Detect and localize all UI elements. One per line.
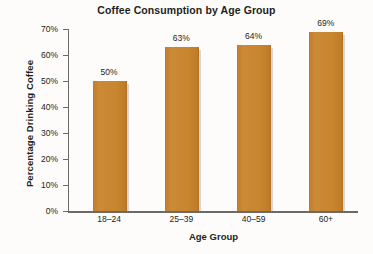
y-tick-label: 30% — [18, 129, 58, 138]
y-tick-mark — [63, 55, 68, 56]
bar — [93, 81, 127, 211]
x-category-label: 25–39 — [153, 215, 210, 224]
y-tick-label: 50% — [18, 77, 58, 86]
x-category-label: 60+ — [297, 215, 354, 224]
y-tick-mark — [63, 185, 68, 186]
chart-title: Coffee Consumption by Age Group — [0, 4, 373, 16]
x-category-label: 40–59 — [225, 215, 282, 224]
bar-value-label: 69% — [299, 19, 352, 28]
bar-value-label: 63% — [155, 34, 208, 43]
y-tick-mark — [63, 133, 68, 134]
y-tick-label: 40% — [18, 103, 58, 112]
y-tick-mark — [63, 107, 68, 108]
y-tick-mark — [63, 29, 68, 30]
y-tick-mark — [63, 81, 68, 82]
bar — [165, 47, 199, 211]
bar-chart: Coffee Consumption by Age Group Percenta… — [0, 0, 373, 254]
bar — [237, 45, 271, 211]
plot-area: 50%63%64%69% — [69, 29, 358, 211]
x-axis-title: Age Group — [69, 231, 358, 242]
bar — [309, 32, 343, 211]
x-axis-line — [68, 211, 358, 213]
y-tick-mark — [63, 159, 68, 160]
y-tick-mark — [63, 211, 68, 212]
y-tick-label: 10% — [18, 181, 58, 190]
y-tick-label: 20% — [18, 155, 58, 164]
y-tick-label: 60% — [18, 51, 58, 60]
bar-value-label: 64% — [227, 32, 280, 41]
bar-value-label: 50% — [83, 68, 136, 77]
y-tick-label: 70% — [18, 25, 58, 34]
x-category-label: 18–24 — [81, 215, 138, 224]
y-tick-label: 0% — [18, 207, 58, 216]
